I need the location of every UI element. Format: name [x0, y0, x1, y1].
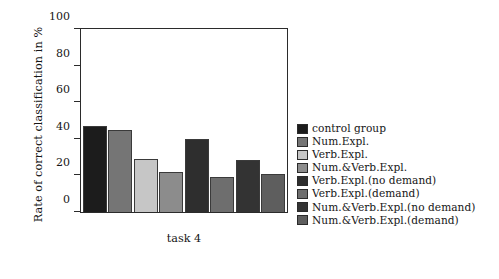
legend-swatch-icon — [297, 215, 308, 225]
legend-item-label: Num.&Verb.Expl.(no demand) — [312, 201, 476, 214]
plot-area: 020406080100 — [80, 28, 288, 213]
legend-swatch-icon — [297, 124, 308, 134]
bar-chart-figure: Rate of correct classification in % 0204… — [0, 0, 499, 279]
legend-item: control group — [297, 122, 476, 135]
legend-item: Verb.Expl.(demand) — [297, 187, 476, 200]
legend-swatch-icon — [297, 189, 308, 199]
legend-item-label: Num.Expl. — [312, 135, 369, 148]
legend-item-label: Num.&Verb.Expl.(demand) — [312, 214, 459, 227]
y-axis-tick-label: 100 — [30, 10, 70, 23]
legend-item-label: control group — [312, 122, 386, 135]
x-axis-title: task 4 — [80, 232, 288, 245]
legend-item: Num.&Verb.Expl. — [297, 161, 476, 174]
bar — [236, 160, 260, 212]
y-axis-tick — [74, 138, 81, 139]
legend-swatch-icon — [297, 163, 308, 173]
y-axis-tick — [74, 174, 81, 175]
y-axis-tick-label: 20 — [30, 156, 70, 169]
legend-item-label: Verb.Expl. — [312, 148, 368, 161]
y-axis-tick-label: 0 — [30, 193, 70, 206]
legend-item: Verb.Expl. — [297, 148, 476, 161]
bar — [108, 130, 132, 212]
bar — [210, 177, 234, 212]
bar — [134, 159, 158, 212]
legend-item: Num.&Verb.Expl.(demand) — [297, 214, 476, 227]
y-axis-tick — [74, 65, 81, 66]
plot-inner: 020406080100 — [81, 29, 287, 212]
bar — [83, 126, 107, 212]
legend-item: Verb.Expl.(no demand) — [297, 174, 476, 187]
legend-item: Num.&Verb.Expl.(no demand) — [297, 201, 476, 214]
legend-swatch-icon — [297, 150, 308, 160]
y-axis-tick-label: 80 — [30, 46, 70, 59]
legend-item-label: Verb.Expl.(demand) — [312, 187, 420, 200]
y-axis-tick — [74, 28, 81, 29]
y-axis-tick-label: 40 — [30, 119, 70, 132]
legend-swatch-icon — [297, 202, 308, 212]
bar — [185, 139, 209, 212]
legend-item-label: Num.&Verb.Expl. — [312, 161, 407, 174]
legend-swatch-icon — [297, 176, 308, 186]
legend-swatch-icon — [297, 137, 308, 147]
y-axis-tick — [74, 211, 81, 212]
y-axis-tick-label: 60 — [30, 83, 70, 96]
chart-legend: control groupNum.Expl.Verb.Expl.Num.&Ver… — [297, 122, 476, 227]
bar — [261, 174, 285, 212]
y-axis-tick — [74, 101, 81, 102]
bar-series — [81, 29, 287, 212]
legend-item: Num.Expl. — [297, 135, 476, 148]
legend-item-label: Verb.Expl.(no demand) — [312, 174, 436, 187]
bar — [159, 172, 183, 212]
